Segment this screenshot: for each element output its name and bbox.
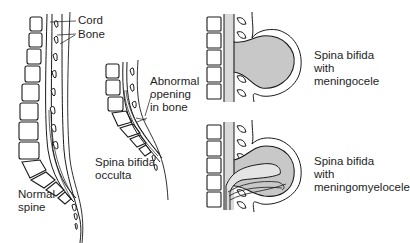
meningomyelocele-illustration: [207, 120, 301, 212]
normal-spine-label: Normal spine: [18, 188, 55, 214]
cord-label: Cord: [78, 14, 103, 27]
abnormal-opening-label: Abnormal opening in bone: [150, 75, 199, 114]
meningocele-label: Spina bifida with meningocele: [314, 49, 379, 88]
meningomyelocele-label: Spina bifida with meningomyelocele: [314, 155, 410, 194]
meningocele-illustration: [207, 12, 301, 102]
bone-label: Bone: [78, 28, 105, 41]
occulta-label: Spina bifida occulta: [95, 156, 155, 182]
